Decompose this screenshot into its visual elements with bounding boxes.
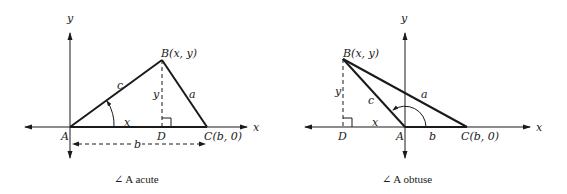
side-a (162, 60, 207, 127)
acute-diagram: y x B(x, y) A D C(b, 0) c a y x b ∠ A ac… (25, 12, 260, 185)
side-a-label: a (421, 88, 428, 101)
caption-obtuse: ∠ A obtuse (382, 173, 432, 185)
b-arrow-left-icon (72, 142, 79, 147)
point-A-label: A (60, 130, 69, 143)
caption-acute: ∠ A acute (114, 173, 159, 185)
point-C-label: C(b, 0) (204, 130, 242, 143)
point-D-label: D (156, 130, 166, 143)
side-c (70, 60, 162, 127)
angle-arc (393, 106, 426, 127)
point-D-label: D (337, 130, 347, 143)
side-c-label: c (368, 94, 374, 107)
obtuse-diagram: y x B(x, y) D A C(b, 0) c a y x b ∠ A ob… (305, 12, 543, 185)
segment-b-label: b (429, 130, 436, 143)
right-angle-mark (162, 118, 171, 127)
segment-x-label: x (124, 116, 131, 129)
altitude-y-label: y (152, 88, 160, 101)
side-c-label: c (117, 79, 123, 92)
right-angle-mark (343, 118, 352, 127)
segment-b-label: b (134, 138, 141, 151)
y-axis-label: y (400, 12, 408, 25)
triangle-diagrams: y x B(x, y) A D C(b, 0) c a y x b ∠ A ac… (0, 0, 567, 194)
altitude-y-label: y (334, 85, 342, 98)
segment-x-label: x (372, 116, 379, 129)
side-a-label: a (189, 88, 196, 101)
angle-arc (107, 101, 114, 127)
x-axis-label: x (253, 121, 260, 134)
point-A-label: A (395, 130, 404, 143)
point-C-label: C(b, 0) (461, 130, 499, 143)
x-axis-label: x (536, 121, 543, 134)
point-B-label: B(x, y) (160, 47, 197, 60)
point-B-label: B(x, y) (342, 47, 379, 60)
y-axis-label: y (66, 12, 74, 25)
